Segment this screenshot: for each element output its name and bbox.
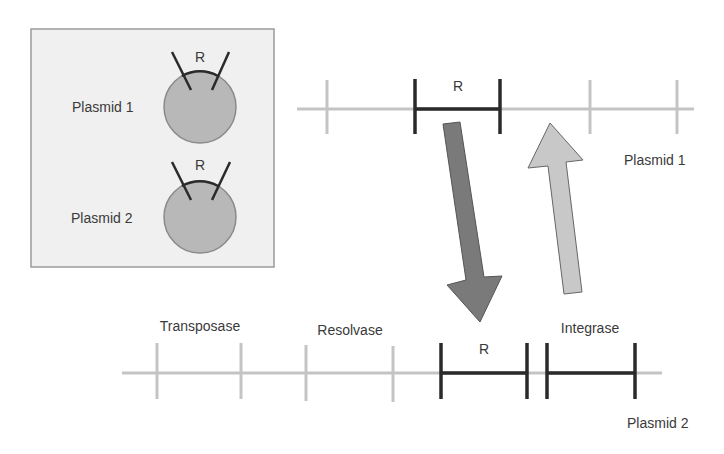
inset-r-label-1: R bbox=[195, 49, 205, 65]
inset-box bbox=[31, 29, 274, 267]
inset-plasmid1-label: Plasmid 1 bbox=[72, 99, 134, 115]
plasmid1-map-label: Plasmid 1 bbox=[624, 152, 686, 168]
inset-plasmid2-label: Plasmid 2 bbox=[71, 210, 133, 226]
plasmid2-map bbox=[122, 343, 662, 402]
plasmid2-r-label: R bbox=[479, 341, 489, 357]
integrase-label: Integrase bbox=[561, 320, 620, 336]
plasmid2-map-label: Plasmid 2 bbox=[627, 415, 689, 431]
transposon-diagram: R Plasmid 1 R Plasmid 2 R Plasmid 1 bbox=[0, 0, 724, 454]
resolvase-label: Resolvase bbox=[317, 322, 383, 338]
down-arrow-icon bbox=[443, 122, 502, 322]
inset-r-label-2: R bbox=[195, 157, 205, 173]
plasmid1-map bbox=[297, 79, 694, 134]
plasmid1-r-label: R bbox=[453, 78, 463, 94]
up-arrow-icon bbox=[528, 123, 583, 294]
transposase-label: Transposase bbox=[160, 318, 241, 334]
